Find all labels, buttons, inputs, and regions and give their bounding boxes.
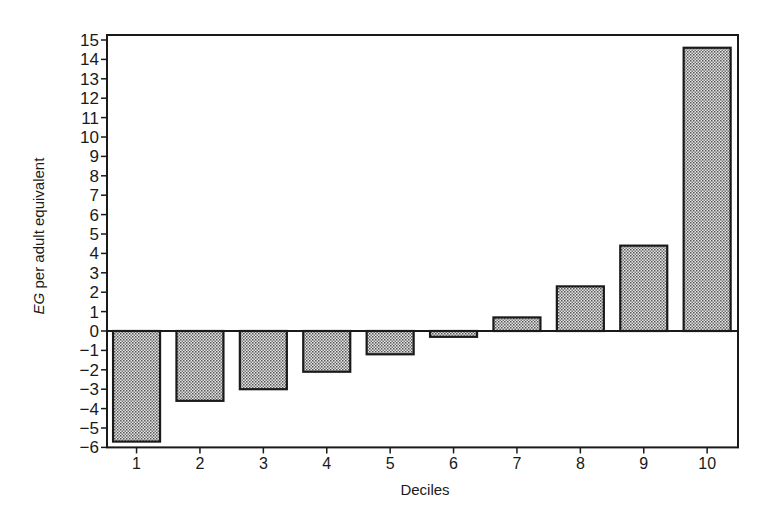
- y-axis-label-rest: per adult equivalent: [30, 158, 47, 293]
- bar-decile-6: [430, 331, 477, 337]
- x-tick-label: 3: [259, 455, 268, 472]
- y-tick-label: 2: [90, 283, 99, 302]
- y-tick-label: 1: [90, 303, 99, 322]
- y-tick-label: −2: [80, 361, 99, 380]
- x-tick-label: 2: [195, 455, 204, 472]
- y-tick-label: −4: [80, 400, 99, 419]
- x-tick-label: 7: [512, 455, 521, 472]
- bar-decile-3: [240, 331, 287, 389]
- x-axis: 12345678910: [132, 447, 716, 472]
- y-tick-label: −1: [80, 341, 99, 360]
- bar-chart: 1514131211109876543210−1−2−3−4−5−6 12345…: [0, 0, 777, 521]
- bar-decile-8: [557, 286, 604, 331]
- y-tick-label: −5: [80, 419, 99, 438]
- y-tick-label: 14: [80, 50, 99, 69]
- y-tick-label: 15: [80, 31, 99, 50]
- y-tick-label: 13: [80, 70, 99, 89]
- x-tick-label: 10: [698, 455, 716, 472]
- bar-decile-5: [367, 331, 414, 354]
- y-tick-label: 0: [90, 322, 99, 341]
- y-axis: 1514131211109876543210−1−2−3−4−5−6: [80, 31, 107, 457]
- bar-decile-7: [493, 317, 540, 331]
- x-tick-label: 1: [132, 455, 141, 472]
- y-tick-label: −3: [80, 380, 99, 399]
- y-tick-label: 9: [90, 147, 99, 166]
- y-tick-label: −6: [80, 438, 99, 457]
- y-tick-label: 11: [81, 109, 99, 128]
- x-tick-label: 5: [386, 455, 395, 472]
- bars: [113, 48, 731, 442]
- y-tick-label: 10: [80, 128, 99, 147]
- x-axis-label: Deciles: [400, 481, 449, 498]
- y-tick-label: 7: [90, 186, 99, 205]
- x-tick-label: 6: [449, 455, 458, 472]
- y-axis-label: EG per adult equivalent: [30, 158, 47, 315]
- x-tick-label: 8: [576, 455, 585, 472]
- y-axis-label-italic: EG: [30, 293, 47, 315]
- bar-decile-10: [684, 48, 731, 331]
- y-tick-label: 12: [80, 89, 99, 108]
- bar-decile-1: [113, 331, 160, 442]
- y-tick-label: 8: [90, 167, 99, 186]
- y-tick-label: 3: [90, 264, 99, 283]
- x-tick-label: 4: [322, 455, 331, 472]
- x-tick-label: 9: [639, 455, 648, 472]
- y-tick-label: 4: [90, 244, 99, 263]
- bar-decile-9: [620, 246, 667, 331]
- y-tick-label: 6: [90, 206, 99, 225]
- bar-decile-2: [176, 331, 223, 401]
- y-tick-label: 5: [90, 225, 99, 244]
- bar-decile-4: [303, 331, 350, 372]
